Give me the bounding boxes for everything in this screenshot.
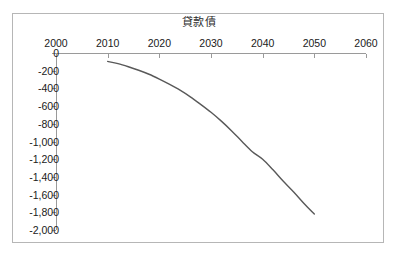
y-axis-tick-label: -1,000 — [29, 136, 59, 148]
y-axis-tick-label: -1,200 — [29, 153, 59, 165]
chart-title: 貸款債 — [13, 15, 385, 29]
x-axis-tick-2060 — [366, 54, 367, 58]
plot-area: 2000201020202030204020502060 0-200-400-6… — [56, 53, 366, 229]
y-axis-tick-label: -1,800 — [29, 206, 59, 218]
x-axis-tick-label: 2030 — [199, 37, 222, 49]
y-axis-tick-label: -2,000 — [29, 224, 59, 236]
x-axis-tick-label: 2040 — [251, 37, 274, 49]
x-axis-tick-label: 2020 — [148, 37, 171, 49]
y-axis-tick-label: -1,600 — [29, 189, 59, 201]
chart-frame: 貸款債 2000201020202030204020502060 0-200-4… — [12, 13, 384, 243]
x-axis-tick-label: 2010 — [96, 37, 119, 49]
series-line-loan-debt — [108, 61, 315, 214]
x-axis-tick-label: 2060 — [354, 37, 377, 49]
y-axis-tick-label: -1,400 — [29, 171, 59, 183]
x-axis-tick-label: 2050 — [303, 37, 326, 49]
series-canvas — [56, 53, 366, 230]
